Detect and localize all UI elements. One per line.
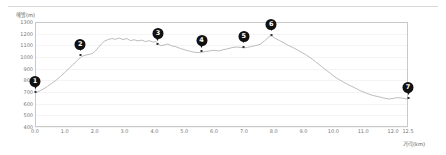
y-tick-label: 500 <box>23 112 33 118</box>
y-tick-label: 1300 <box>20 19 33 25</box>
waypoint-marker-5[interactable]: 5 <box>238 31 249 42</box>
waypoint-pin-icon: 4 <box>196 35 207 46</box>
x-tick-label: 10.0 <box>328 128 339 134</box>
x-axis-tick-labels: 0.01.02.03.04.05.06.07.08.09.010.011.012… <box>0 128 446 138</box>
y-tick-label: 1100 <box>20 42 33 48</box>
x-tick-label: 8.0 <box>270 128 278 134</box>
waypoint-pin-icon: 2 <box>75 39 86 50</box>
waypoint-anchor-dot <box>201 50 203 52</box>
waypoint-anchor-dot <box>157 43 159 45</box>
waypoint-marker-7[interactable]: 7 <box>403 82 414 93</box>
x-axis-title: 거리(km) <box>403 140 425 147</box>
waypoint-pin-icon: 1 <box>30 76 41 87</box>
gridline <box>35 127 408 128</box>
waypoint-marker-6[interactable]: 6 <box>266 19 277 30</box>
x-tick-label: 2.0 <box>91 128 99 134</box>
x-tick-label: 7.0 <box>240 128 248 134</box>
waypoint-pin-icon: 7 <box>403 82 414 93</box>
x-tick-label: 0.0 <box>31 128 39 134</box>
waypoint-anchor-dot <box>270 34 272 36</box>
waypoint-anchor-dot <box>79 54 81 56</box>
y-tick-label: 600 <box>23 101 33 107</box>
y-tick-label: 1000 <box>20 54 33 60</box>
x-tick-label: 1.0 <box>61 128 69 134</box>
waypoint-pin-icon: 6 <box>266 19 277 30</box>
waypoint-marker-4[interactable]: 4 <box>196 35 207 46</box>
waypoint-anchor-dot <box>407 97 409 99</box>
plot-border <box>35 22 408 127</box>
waypoint-marker-3[interactable]: 3 <box>152 28 163 39</box>
waypoint-pin-icon: 3 <box>152 28 163 39</box>
elevation-profile-chart: 해발(m) 거리(km) 130012001100100090080070060… <box>0 0 446 155</box>
plot-area: 1234567 <box>35 22 408 127</box>
waypoint-marker-2[interactable]: 2 <box>75 39 86 50</box>
waypoint-anchor-dot <box>34 91 36 93</box>
waypoint-pin-icon: 5 <box>238 31 249 42</box>
x-tick-label: 5.0 <box>180 128 188 134</box>
x-tick-label: 9.0 <box>300 128 308 134</box>
x-tick-label: 6.0 <box>210 128 218 134</box>
x-tick-label: 3.0 <box>121 128 129 134</box>
y-tick-label: 1200 <box>20 31 33 37</box>
x-tick-label: 12.5 <box>402 128 413 134</box>
waypoint-marker-1[interactable]: 1 <box>30 76 41 87</box>
y-tick-label: 900 <box>23 66 33 72</box>
x-tick-label: 4.0 <box>150 128 158 134</box>
y-tick-label: 700 <box>23 89 33 95</box>
waypoint-anchor-dot <box>243 46 245 48</box>
x-tick-label: 12.0 <box>388 128 399 134</box>
x-tick-label: 11.0 <box>358 128 369 134</box>
